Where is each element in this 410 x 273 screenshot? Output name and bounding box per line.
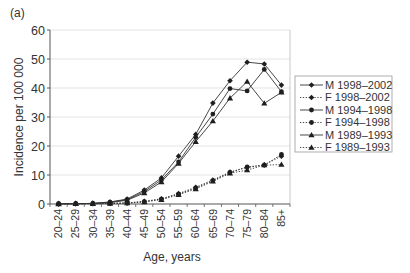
x-tick-label: 80–84	[258, 209, 270, 238]
x-tick-label: 30–34	[87, 209, 99, 238]
data-point-triangle-icon	[278, 161, 284, 166]
x-tick-label: 25–29	[69, 209, 81, 238]
y-tick-label: 10	[31, 169, 45, 183]
data-point-circle-icon	[245, 89, 250, 94]
legend-label: M 1994–1998	[325, 104, 392, 116]
series-line	[59, 154, 282, 204]
series-f-1989-1993	[55, 161, 284, 206]
data-point-circle-icon	[279, 152, 284, 157]
series-m-1989-1993	[55, 79, 284, 206]
data-point-circle-icon	[210, 112, 215, 117]
y-tick-label: 40	[31, 82, 45, 96]
y-tick-label: 30	[31, 111, 45, 125]
legend-label: F 1998–2002	[325, 91, 390, 103]
legend-circle-icon	[309, 108, 314, 113]
series-line	[59, 82, 282, 204]
panel-label: (a)	[10, 6, 25, 20]
x-tick-label: 50–54	[155, 209, 167, 238]
gridlines	[50, 30, 290, 204]
legend-label: M 1998–2002	[325, 79, 392, 91]
data-series	[55, 59, 284, 206]
y-tick-label: 0	[38, 198, 45, 212]
y-tick-label: 60	[31, 24, 45, 38]
y-tick-label: 50	[31, 53, 45, 67]
legend: M 1998–2002F 1998–2002M 1994–1998F 1994–…	[295, 76, 392, 153]
x-tick-label: 65–69	[207, 209, 219, 238]
data-point-circle-icon	[262, 67, 267, 72]
data-point-circle-icon	[228, 86, 233, 91]
x-axis-title: Age, years	[143, 250, 200, 264]
series-m-1998-2002	[56, 59, 284, 206]
axes: 010203040506020–2425–2930–3435–3940–4445…	[31, 24, 290, 239]
x-tick-label: 20–24	[52, 209, 64, 238]
x-tick-label: 60–64	[189, 209, 201, 238]
series-f-1998-2002	[56, 153, 284, 206]
y-tick-label: 20	[31, 140, 45, 154]
x-tick-label: 85+	[275, 209, 287, 227]
legend-label: F 1989–1993	[325, 141, 390, 153]
legend-circle-icon	[309, 120, 314, 125]
x-tick-label: 45–49	[138, 209, 150, 238]
series-line	[59, 156, 282, 204]
series-f-1994-1998	[56, 152, 284, 206]
y-axis-title: Incidence per 100 000	[12, 57, 26, 176]
legend-label: F 1994–1998	[325, 116, 390, 128]
x-tick-label: 75–79	[241, 209, 253, 238]
x-tick-label: 40–44	[121, 209, 133, 238]
line-chart: (a) 010203040506020–2425–2930–3435–3940–…	[0, 0, 410, 273]
x-tick-label: 55–59	[172, 209, 184, 238]
x-tick-label: 35–39	[104, 209, 116, 238]
x-tick-label: 70–74	[224, 209, 236, 238]
legend-label: M 1989–1993	[325, 129, 392, 141]
data-point-triangle-icon	[244, 79, 250, 84]
